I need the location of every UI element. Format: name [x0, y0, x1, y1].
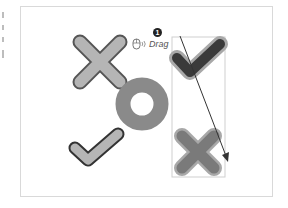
cross-shape-light[interactable] [80, 42, 120, 82]
mouse-icon [133, 39, 145, 49]
step-number-badge: 1 [153, 28, 162, 37]
check-shape-light[interactable] [75, 134, 118, 160]
ring-shape[interactable] [123, 85, 161, 123]
drag-label: Drag [149, 39, 169, 49]
diagram-canvas [0, 0, 288, 208]
cross-shape-selected[interactable] [182, 136, 214, 168]
check-shape-selected[interactable] [177, 44, 220, 72]
